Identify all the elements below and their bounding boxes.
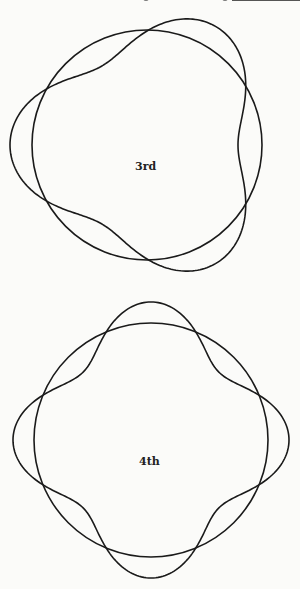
fourth-mode-diagram [0,0,300,589]
diagram-label-4th: 4th [139,455,160,468]
wavy-deformed-shape [13,302,289,578]
reference-circle [34,323,268,557]
